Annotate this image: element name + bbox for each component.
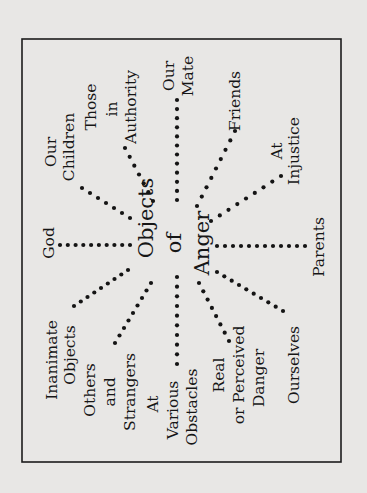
label-real-or-perceived-danger: Real or Perceived Danger [210, 326, 268, 425]
label-our-mate: Our Mate [160, 56, 197, 97]
spoke-god [58, 243, 132, 247]
dot [151, 199, 155, 203]
dot [223, 148, 227, 152]
dot [266, 300, 270, 304]
dot [175, 352, 179, 356]
dot [128, 216, 132, 220]
dot [175, 98, 179, 102]
dot [218, 322, 222, 326]
svg-text:Those: Those [82, 84, 100, 131]
dot [244, 196, 248, 200]
dot [201, 289, 205, 293]
svg-text:in: in [103, 102, 121, 117]
spoke-friends [195, 129, 237, 208]
dot [204, 185, 208, 189]
dot [175, 314, 179, 318]
dot [228, 138, 232, 142]
dot [126, 318, 130, 322]
svg-text:Injustice: Injustice [285, 117, 303, 185]
dot [175, 304, 179, 308]
label-god: God [40, 227, 58, 259]
dot [99, 286, 103, 290]
dot [74, 243, 78, 247]
dot [218, 213, 222, 217]
dot [142, 181, 146, 185]
dot [219, 157, 223, 161]
label-at-various-obstacles: At Various Obstacles [144, 369, 201, 446]
dot [104, 201, 108, 205]
dot [112, 206, 116, 210]
dot [106, 281, 110, 285]
dot [295, 244, 299, 248]
dot [175, 162, 179, 166]
dot [120, 211, 124, 215]
svg-text:or Perceived: or Perceived [230, 326, 248, 425]
spoke-our-mate [175, 98, 179, 202]
dot [97, 243, 101, 247]
dot [126, 268, 130, 272]
dot [235, 202, 239, 206]
svg-text:Real: Real [210, 357, 228, 392]
label-ourselves: Ourselves [285, 326, 303, 404]
dot [135, 303, 139, 307]
dot [197, 281, 201, 285]
dot [131, 311, 135, 315]
dot [149, 281, 153, 285]
svg-text:Inanimate: Inanimate [43, 320, 61, 400]
dot [195, 204, 199, 208]
svg-text:Others: Others [81, 363, 99, 417]
dot [66, 243, 70, 247]
dot [274, 305, 278, 309]
dot [175, 125, 179, 129]
dot [214, 314, 218, 318]
dot [223, 244, 227, 248]
page: Objects of Anger Inanimate Objects God O… [0, 0, 367, 493]
dot [175, 198, 179, 202]
dot [175, 323, 179, 327]
dot [175, 275, 179, 279]
dot [175, 333, 179, 337]
dot [270, 180, 274, 184]
dot [303, 244, 307, 248]
dot [175, 171, 179, 175]
dot [200, 195, 204, 199]
dot [58, 243, 62, 247]
label-our-children: Our Children [42, 113, 78, 181]
svg-text:Children: Children [60, 113, 78, 181]
svg-text:Obstacles: Obstacles [183, 369, 201, 446]
svg-text:At: At [268, 142, 286, 161]
dot [281, 309, 285, 313]
objects-of-anger-diagram: Objects of Anger Inanimate Objects God O… [0, 0, 367, 493]
dot [215, 244, 219, 248]
dot [80, 186, 84, 190]
dot [117, 333, 121, 337]
dot [92, 290, 96, 294]
dot [175, 285, 179, 289]
svg-text:Strangers: Strangers [121, 353, 139, 431]
dot [113, 341, 117, 345]
dot [175, 362, 179, 366]
dot [128, 243, 132, 247]
dot [247, 244, 251, 248]
dot [132, 164, 136, 168]
dot [123, 146, 127, 150]
label-at-injustice: At Injustice [268, 117, 303, 185]
dot [175, 107, 179, 111]
spoke-at-injustice [209, 174, 283, 223]
dot [120, 243, 124, 247]
label-inanimate-objects: Inanimate Objects [43, 320, 79, 400]
svg-text:Mate: Mate [179, 56, 197, 97]
dot [259, 296, 263, 300]
svg-text:and: and [101, 377, 119, 406]
dot [128, 155, 132, 159]
dot [175, 294, 179, 298]
dot [261, 185, 265, 189]
dot [222, 274, 226, 278]
dot [210, 306, 214, 310]
svg-text:At: At [144, 395, 162, 414]
dot [81, 243, 85, 247]
svg-text:Ourselves: Ourselves [285, 326, 303, 404]
dot [287, 244, 291, 248]
dot [146, 190, 150, 194]
dot [175, 143, 179, 147]
